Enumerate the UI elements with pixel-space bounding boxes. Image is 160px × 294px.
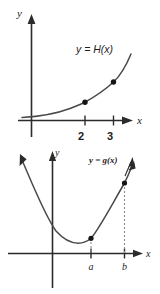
top-graph-point-at-2 xyxy=(82,100,87,105)
top-graph-x-axis-arrowhead xyxy=(122,116,133,124)
bottom-graph-point-at-b xyxy=(122,180,127,185)
top-graph-y-axis-label: y xyxy=(16,7,22,19)
top-graph: y x y = H(x) 2 3 xyxy=(16,7,142,142)
bottom-graph-x-axis-arrowhead xyxy=(133,250,143,258)
top-graph-point-at-3 xyxy=(111,79,116,84)
top-graph-function-label: y = H(x) xyxy=(75,43,113,55)
bottom-graph-point-at-a xyxy=(88,236,93,241)
bottom-graph-function-label: y = g(x) xyxy=(88,155,118,165)
math-figure-svg: y x y = H(x) 2 3 xyxy=(0,0,160,294)
bottom-graph-x-tick-label-a: a xyxy=(89,261,94,272)
bottom-graph: y x y = g(x) a b xyxy=(8,147,151,288)
top-graph-y-axis-arrowhead xyxy=(28,14,36,24)
top-graph-curve-H xyxy=(22,54,131,118)
top-graph-x-axis-label: x xyxy=(136,114,142,126)
top-graph-x-tick-label-2: 2 xyxy=(78,130,84,142)
bottom-graph-x-tick-label-b: b xyxy=(122,261,127,272)
figure-container: y x y = H(x) 2 3 xyxy=(0,0,160,294)
bottom-graph-curve-g xyxy=(22,160,132,243)
bottom-graph-y-axis-label: y xyxy=(54,147,60,158)
bottom-graph-x-axis-label: x xyxy=(145,248,151,259)
top-graph-x-tick-label-3: 3 xyxy=(107,130,113,142)
